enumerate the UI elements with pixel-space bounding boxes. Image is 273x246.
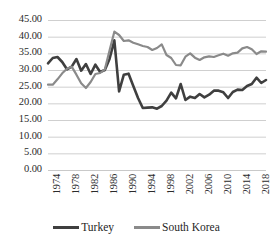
line-chart: 45.0040.0035.0030.0025.0020.0015.0010.00…: [0, 0, 273, 246]
legend-item-turkey[interactable]: Turkey: [53, 221, 114, 233]
plot-area: [0, 0, 273, 246]
legend-label: South Korea: [162, 221, 220, 233]
series-line-south-korea: [48, 32, 266, 88]
legend-item-south-korea[interactable]: South Korea: [134, 221, 220, 233]
legend-swatch-icon: [134, 226, 160, 229]
legend-label: Turkey: [81, 221, 114, 233]
series-line-turkey: [48, 40, 266, 108]
legend-swatch-icon: [53, 226, 79, 229]
gridlines: [48, 21, 266, 171]
chart-legend: TurkeySouth Korea: [0, 216, 273, 238]
